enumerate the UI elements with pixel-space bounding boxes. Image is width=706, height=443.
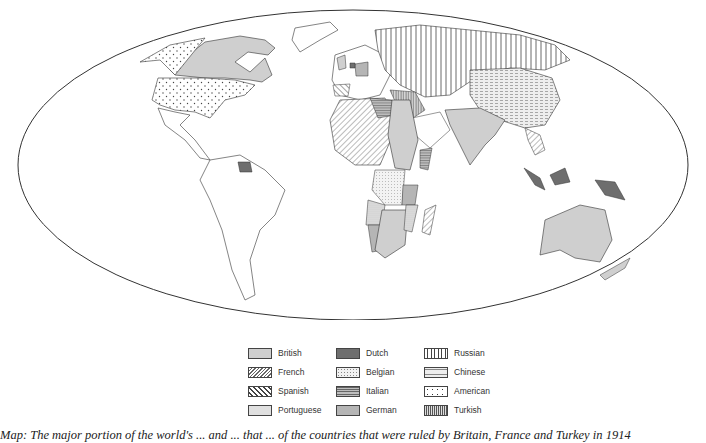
spanish-swatch — [248, 386, 272, 397]
region-guianas — [238, 162, 252, 172]
legend-label: Spanish — [278, 386, 309, 396]
region-east-indies-2 — [550, 168, 570, 185]
legend-item-portuguese: Portuguese — [248, 403, 321, 417]
map-legend: British French Spanish Portuguese Dutch … — [248, 346, 518, 416]
legend-label: American — [454, 386, 490, 396]
region-netherlands — [350, 63, 355, 68]
legend-label: Russian — [454, 348, 485, 358]
italian-swatch — [336, 386, 360, 397]
legend-label: Chinese — [454, 367, 485, 377]
legend-item-italian: Italian — [336, 384, 389, 398]
french-swatch — [248, 367, 272, 378]
legend-label: Turkish — [454, 405, 482, 415]
region-madagascar — [422, 205, 436, 235]
region-australia — [540, 205, 612, 262]
legend-item-french: French — [248, 365, 304, 379]
region-germany — [355, 62, 368, 76]
region-somaliland — [420, 148, 432, 170]
legend-item-spanish: Spanish — [248, 384, 309, 398]
british-swatch — [248, 348, 272, 359]
legend-item-german: German — [336, 403, 397, 417]
legend-item-russian: Russian — [424, 346, 485, 360]
american-swatch — [424, 386, 448, 397]
belgian-swatch — [336, 367, 360, 378]
legend-label: Belgian — [366, 367, 394, 377]
legend-item-dutch: Dutch — [336, 346, 388, 360]
legend-label: Dutch — [366, 348, 388, 358]
region-new-guinea — [595, 180, 625, 200]
legend-label: French — [278, 367, 304, 377]
region-mexico-central-america — [158, 108, 210, 160]
region-greenland — [292, 22, 338, 52]
legend-item-chinese: Chinese — [424, 365, 485, 379]
region-east-indies-1 — [524, 168, 545, 190]
region-india — [445, 108, 505, 165]
region-mozambique — [404, 205, 418, 232]
portuguese-swatch — [248, 405, 272, 416]
world-map — [0, 0, 706, 320]
region-german-east-africa — [402, 185, 418, 205]
legend-item-belgian: Belgian — [336, 365, 394, 379]
legend-item-british: British — [248, 346, 302, 360]
map-caption: Map: The major portion of the world's ..… — [0, 428, 706, 443]
legend-label: Portuguese — [278, 405, 321, 415]
region-indochina — [525, 128, 545, 155]
region-south-america — [200, 155, 285, 300]
legend-label: British — [278, 348, 302, 358]
turkish-swatch — [424, 405, 448, 416]
region-spain — [333, 84, 350, 96]
legend-label: Italian — [366, 386, 389, 396]
german-swatch — [336, 405, 360, 416]
region-arabia — [412, 112, 450, 148]
dutch-swatch — [336, 348, 360, 359]
legend-item-american: American — [424, 384, 490, 398]
russian-swatch — [424, 348, 448, 359]
chinese-swatch — [424, 367, 448, 378]
region-congo — [372, 170, 405, 205]
legend-item-turkish: Turkish — [424, 403, 482, 417]
legend-label: German — [366, 405, 397, 415]
